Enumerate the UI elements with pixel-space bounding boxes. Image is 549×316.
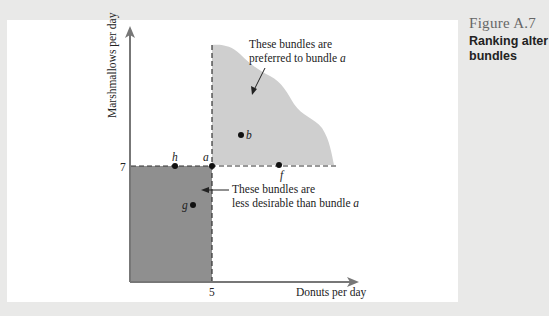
y-tick-7: 7 (120, 161, 126, 173)
less-annotation-line2: less desirable than bundle a (232, 197, 359, 209)
point-f (276, 162, 282, 168)
point-a (209, 163, 215, 169)
label-b: b (246, 129, 252, 141)
preferred-annotation-line1: These bundles are (249, 38, 332, 50)
label-a: a (203, 151, 209, 163)
less-annotation-line1: These bundles are (232, 183, 315, 195)
preferred-annotation-line2: preferred to bundle a (249, 52, 346, 65)
label-f: f (280, 169, 285, 182)
y-axis-label: Marshmallows per day (106, 12, 119, 118)
x-axis-label: Donuts per day (296, 286, 367, 299)
figure-title-line1: Ranking alter (469, 34, 549, 49)
less-desirable-region (131, 166, 212, 282)
figure-number: Figure A.7 (469, 15, 536, 32)
figure-title: Ranking alter bundles (469, 34, 549, 64)
point-b (238, 132, 244, 138)
figure-title-line2: bundles (469, 49, 549, 64)
x-tick-5: 5 (209, 286, 215, 298)
point-g (190, 202, 196, 208)
label-h: h (172, 151, 178, 163)
label-g: g (182, 199, 188, 212)
point-h (172, 163, 178, 169)
